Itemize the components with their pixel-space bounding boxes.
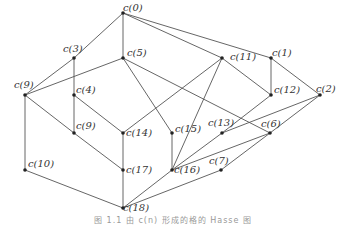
hasse-diagram: c(0)c(1)c(2)c(3)c(4)c(5)c(6)c(7)c(9)c(9)…	[0, 0, 346, 228]
node-label: c(13)	[208, 118, 234, 128]
node-label: c(4)	[76, 85, 96, 95]
node-label: c(11)	[230, 52, 256, 62]
node-label: c(17)	[126, 165, 152, 175]
node-label: c(1)	[272, 48, 292, 58]
node-n12	[269, 93, 273, 97]
node-label: c(9)	[76, 121, 96, 131]
diagram-edges	[0, 0, 346, 228]
node-n13	[220, 131, 224, 135]
node-label: c(6)	[261, 119, 281, 129]
node-label: c(5)	[127, 48, 147, 58]
edge-n5-n15	[123, 58, 172, 133]
node-label: c(12)	[274, 85, 300, 95]
node-n3	[72, 56, 76, 60]
node-n11	[220, 56, 224, 60]
node-n15	[170, 131, 174, 135]
edge-n9a-n9b	[25, 95, 74, 133]
edge-n5-n6	[123, 58, 270, 133]
edge-n10-n18	[25, 170, 123, 208]
node-n10	[23, 168, 27, 172]
edge-n11-n16	[172, 58, 222, 170]
figure-caption: 图 1.1 由 c(n) 形成的格的 Hasse 图	[0, 214, 346, 225]
node-label: c(18)	[123, 203, 149, 213]
edge-n11-n12	[222, 58, 271, 95]
node-label: c(2)	[316, 84, 336, 94]
node-n17	[121, 168, 125, 172]
node-label: c(10)	[28, 159, 54, 169]
node-n6	[268, 131, 272, 135]
node-n9a	[23, 93, 27, 97]
node-label: c(15)	[175, 124, 201, 134]
node-label: c(14)	[126, 128, 152, 138]
node-label: c(9)	[14, 80, 34, 90]
node-label: c(0)	[123, 3, 143, 13]
node-n5	[121, 56, 125, 60]
node-n9b	[72, 131, 76, 135]
node-n14	[121, 131, 125, 135]
node-label: c(7)	[209, 156, 229, 166]
node-label: c(16)	[174, 165, 200, 175]
edge-n9b-n17	[74, 133, 123, 170]
node-n7	[219, 168, 223, 172]
node-label: c(3)	[63, 44, 83, 54]
